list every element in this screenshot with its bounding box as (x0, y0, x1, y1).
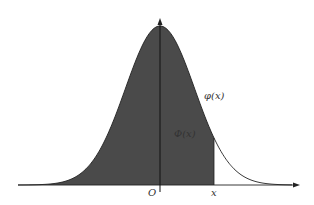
curve-label: φ(x) (204, 90, 225, 101)
area-label: Φ(x) (174, 128, 196, 139)
y-axis-arrow-icon (158, 18, 163, 25)
origin-label: O (148, 187, 156, 198)
normal-distribution-diagram: φ(x) Φ(x) O x (0, 0, 314, 205)
cumulative-area-shading (18, 26, 214, 185)
x-marker-label: x (211, 187, 217, 198)
x-axis-arrow-icon (293, 183, 300, 188)
